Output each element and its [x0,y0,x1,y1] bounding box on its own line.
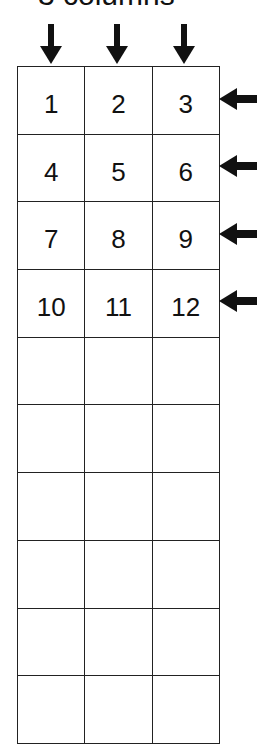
grid-cell [18,338,85,405]
grid-cell [85,541,152,608]
grid-cell [85,609,152,676]
grid-cell: 5 [85,135,152,202]
grid-cell [18,609,85,676]
grid-cell [85,405,152,472]
grid-cell: 1 [18,67,85,134]
grid-row [18,405,219,473]
grid-cell [153,473,219,540]
down-arrow-icon [173,24,195,64]
grid-cell [18,405,85,472]
grid-row [18,609,219,677]
grid-cell [153,541,219,608]
grid-row [18,338,219,406]
grid-cell: 9 [153,202,219,269]
grid-cell [18,541,85,608]
left-arrow-icon [219,88,257,110]
grid-cell: 10 [18,270,85,337]
grid-row [18,541,219,609]
left-arrow-icon [219,290,257,312]
grid-row: 7 8 9 [18,202,219,270]
number-grid: 1 2 3 4 5 6 7 8 9 10 11 12 [17,66,220,744]
grid-cell [85,338,152,405]
grid-row: 1 2 3 [18,67,219,135]
grid-cell: 3 [153,67,219,134]
left-arrow-icon [219,223,257,245]
grid-cell: 7 [18,202,85,269]
grid-cell: 8 [85,202,152,269]
left-arrow-icon [219,155,257,177]
grid-row [18,676,219,744]
grid-cell [85,473,152,540]
grid-cell: 6 [153,135,219,202]
grid-cell [18,473,85,540]
grid-cell [85,676,152,743]
diagram-title: 3 columns [38,0,175,12]
grid-cell: 4 [18,135,85,202]
down-arrow-icon [106,24,128,64]
grid-row: 10 11 12 [18,270,219,338]
grid-cell [153,338,219,405]
grid-cell [153,609,219,676]
grid-cell: 2 [85,67,152,134]
grid-cell [18,676,85,743]
grid-cell [153,405,219,472]
grid-cell [153,676,219,743]
down-arrow-icon [40,24,62,64]
grid-cell: 11 [85,270,152,337]
grid-row: 4 5 6 [18,135,219,203]
grid-cell: 12 [153,270,219,337]
grid-row [18,473,219,541]
